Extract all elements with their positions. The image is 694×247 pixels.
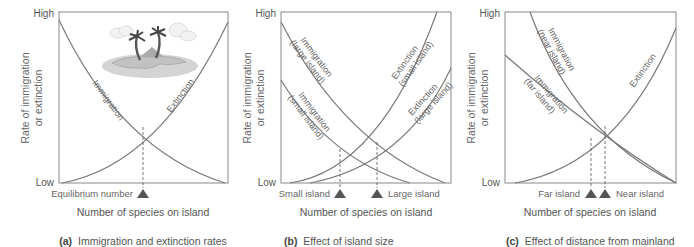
extinction-curve — [62, 22, 228, 183]
figure-canvas: High Low Rate of immigration or extincti… — [0, 0, 694, 247]
panel-b: High Low Rate of immigration or extincti… — [241, 8, 454, 247]
y-axis-label-line2: or extinction — [254, 70, 266, 127]
large-island-marker-label: Large island — [388, 188, 440, 199]
y-tick-low: Low — [36, 177, 55, 188]
equilibrium-marker-icon — [137, 189, 149, 198]
x-axis-label: Number of species on island — [300, 206, 433, 218]
immigration-far-curve — [505, 55, 676, 183]
caption-text: Effect of distance from mainland — [525, 235, 675, 247]
caption-b: (b) Effect of island size — [284, 235, 394, 247]
equilibrium-marker-label: Equilibrium number — [51, 188, 133, 199]
extinction-large-label: Extinction (large island) — [405, 73, 455, 125]
plot-frame — [59, 12, 228, 183]
y-tick-high: High — [479, 8, 500, 19]
extinction-curve-label: Extinction — [165, 77, 196, 114]
caption-letter: (c) — [506, 235, 519, 247]
caption-letter: (a) — [59, 235, 72, 247]
caption-text: Immigration and extinction rates — [78, 235, 227, 247]
immigration-large-label: Immigration (large island) — [288, 32, 336, 87]
far-island-marker-label: Far island — [538, 188, 580, 199]
extinction-curve — [515, 28, 676, 183]
caption-a: (a) Immigration and extinction rates — [59, 235, 227, 247]
small-island-marker-label: Small island — [279, 188, 330, 199]
immigration-curve — [59, 20, 225, 183]
y-tick-low: Low — [258, 177, 277, 188]
y-axis-label-line2: or extinction — [32, 70, 44, 127]
immigration-curve-label: Immigration — [90, 78, 126, 122]
x-axis-label: Number of species on island — [77, 206, 210, 218]
y-axis-label-line1: Rate of immigration — [241, 52, 253, 143]
y-tick-low: Low — [482, 177, 501, 188]
extinction-small-label: Extinction (small island) — [388, 34, 435, 89]
near-island-marker-label: Near island — [616, 188, 664, 199]
immigration-small-label: Immigration (small island) — [286, 87, 334, 142]
immigration-near-label: Immigration (near island) — [536, 23, 579, 80]
extinction-small-curve — [290, 12, 437, 183]
large-island-marker-icon — [371, 189, 383, 198]
x-axis-label: Number of species on island — [524, 206, 657, 218]
caption-c: (c) Effect of distance from mainland — [506, 235, 675, 247]
far-island-marker-icon — [585, 189, 597, 198]
plot-frame — [505, 12, 676, 183]
y-tick-high: High — [255, 8, 276, 19]
small-island-marker-icon — [334, 189, 346, 198]
panel-a: High Low Rate of immigration or extincti… — [19, 8, 228, 247]
caption-text: Effect of island size — [303, 235, 393, 247]
y-tick-high: High — [33, 8, 54, 19]
immigration-far-label: Immigration (far island) — [522, 70, 572, 124]
panel-c: High Low Rate of immigration or extincti… — [465, 8, 676, 247]
near-island-marker-icon — [599, 189, 611, 198]
y-axis-label-line2: or extinction — [478, 70, 490, 127]
island-illustration-icon — [102, 23, 198, 78]
y-axis-label-line1: Rate of immigration — [465, 52, 477, 143]
extinction-curve-label: Extinction — [627, 51, 658, 89]
y-axis-label-line1: Rate of immigration — [19, 52, 31, 143]
caption-letter: (b) — [284, 235, 297, 247]
